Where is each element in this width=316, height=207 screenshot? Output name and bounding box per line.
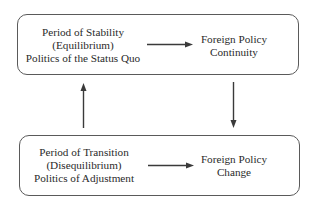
arrows-layer [0,0,316,207]
arrow-transition-to-stability [81,83,87,128]
arrow-stability-to-continuity [147,42,193,48]
arrow-transition-to-change [148,163,194,169]
arrow-continuity-to-transition [231,82,237,128]
